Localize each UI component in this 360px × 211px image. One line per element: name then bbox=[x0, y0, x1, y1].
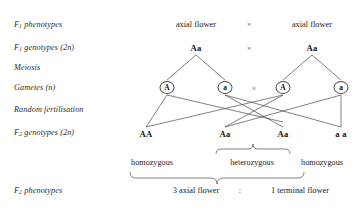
stage-label-random-fertilisation: Random fertilisation bbox=[14, 105, 84, 114]
genetics-cross-diagram: F1 phenotypes F1 genotypes (2n) Meiosis … bbox=[0, 0, 360, 211]
stage-label-f2-genotypes: F2 genotypes (2n) bbox=[14, 128, 74, 137]
gamete-circle-1: A bbox=[160, 81, 175, 94]
stage-label-f1-genotypes: F1 genotypes (2n) bbox=[14, 43, 74, 52]
f1-genotype-left: Aa bbox=[191, 43, 202, 53]
f2-genotype-3: Aa bbox=[278, 129, 289, 139]
meiosis-line-left-2 bbox=[196, 55, 225, 80]
gamete-circle-3: A bbox=[276, 81, 291, 94]
f2-genotype-4: a a bbox=[335, 129, 346, 139]
phenotype-cross-symbol: × bbox=[247, 20, 252, 29]
gamete-cross-symbol: × bbox=[252, 84, 257, 93]
stage-label-meiosis: Meiosis bbox=[14, 63, 40, 72]
gamete-circle-4: a bbox=[334, 81, 349, 94]
f2-ratio-separator: : bbox=[239, 186, 241, 195]
gamete-circle-2: a bbox=[218, 81, 233, 94]
f2-genotype-2: Aa bbox=[220, 129, 231, 139]
f1-phenotype-left: axial flower bbox=[176, 20, 216, 29]
f1-phenotype-right: axial flower bbox=[292, 20, 332, 29]
f2-genotype-1: AA bbox=[140, 129, 153, 139]
meiosis-line-right-2 bbox=[312, 55, 341, 80]
zygosity-label-homozygous-right: homozygous bbox=[301, 158, 343, 167]
zygosity-label-heterozygous: heterozygous bbox=[230, 158, 274, 167]
stage-label-f2-phenotypes: F2 phenotypes bbox=[14, 186, 62, 195]
f2-ratio-left: 3 axial flower bbox=[173, 186, 220, 195]
f1-genotype-right: Aa bbox=[307, 43, 318, 53]
brace-heterozygous bbox=[216, 144, 290, 154]
fert-line-1 bbox=[146, 95, 167, 127]
fert-line-5 bbox=[146, 95, 283, 127]
stage-label-gametes: Gametes (n) bbox=[14, 83, 55, 92]
f2-ratio-right: 1 terminal flower bbox=[271, 186, 329, 195]
brace-axial-group bbox=[130, 172, 304, 184]
zygosity-label-homozygous-left: homozygous bbox=[131, 158, 173, 167]
meiosis-line-right-1 bbox=[283, 55, 312, 80]
stage-label-f1-phenotypes: F1 phenotypes bbox=[14, 20, 62, 29]
genotype-cross-symbol: × bbox=[247, 44, 252, 53]
meiosis-line-left-1 bbox=[167, 55, 196, 80]
